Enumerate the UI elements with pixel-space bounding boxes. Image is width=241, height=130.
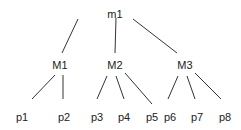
node-p5: p5 xyxy=(146,111,158,123)
edge-M2-p3 xyxy=(97,76,107,99)
node-p6: p6 xyxy=(164,111,176,123)
edge-m1-M2 xyxy=(115,18,116,53)
edge-m1-M1 xyxy=(62,19,78,53)
edge-M2-p4 xyxy=(116,76,124,99)
edge-M1-p1 xyxy=(32,75,55,99)
node-m1: m1 xyxy=(107,8,122,20)
node-p4: p4 xyxy=(118,111,130,123)
edge-m1-M3 xyxy=(133,19,177,53)
node-M1: M1 xyxy=(52,59,67,71)
node-labels: m1M1M2M3p1p2p3p4p5p6p7p8 xyxy=(16,8,231,123)
node-M2: M2 xyxy=(107,59,122,71)
edge-M3-p8 xyxy=(195,73,221,99)
node-p7: p7 xyxy=(191,111,203,123)
node-p2: p2 xyxy=(58,111,70,123)
tree-diagram: m1M1M2M3p1p2p3p4p5p6p7p8 xyxy=(0,0,241,130)
edge-M3-p7 xyxy=(187,76,195,99)
node-p1: p1 xyxy=(16,111,28,123)
node-p8: p8 xyxy=(219,111,231,123)
node-M3: M3 xyxy=(177,59,192,71)
edge-M3-p6 xyxy=(168,76,178,99)
node-p3: p3 xyxy=(91,111,103,123)
edge-M2-p5 xyxy=(125,73,152,104)
